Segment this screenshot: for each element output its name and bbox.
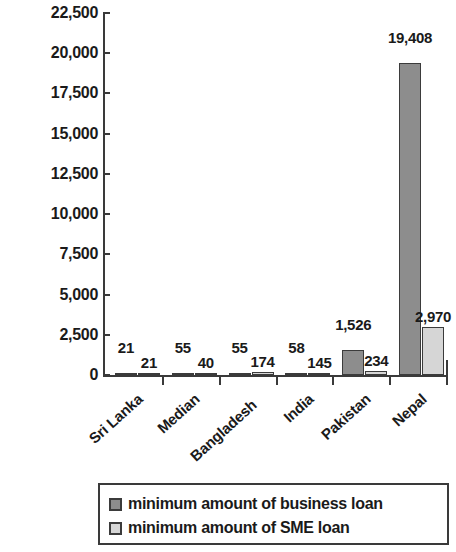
legend-swatch-icon-sme-loan (109, 522, 122, 535)
bar-value-label: 55 (175, 340, 191, 355)
bar[interactable] (138, 373, 160, 376)
y-axis-tick-label: 12,500 (12, 166, 98, 182)
y-axis-tick-mark (103, 294, 110, 296)
x-axis-tick-mark (332, 377, 334, 385)
x-axis-tick-mark (389, 377, 391, 385)
y-axis-tick-mark (103, 133, 110, 135)
bar[interactable] (115, 373, 137, 376)
bar-value-label: 2,970 (415, 309, 451, 324)
bar[interactable] (252, 372, 274, 375)
y-axis-tick-mark (103, 334, 110, 336)
legend-label-business-loan: minimum amount of business loan (128, 495, 383, 513)
y-axis-tick-label: 17,500 (12, 85, 98, 101)
bar-value-label: 234 (364, 353, 388, 368)
legend-item-sme-loan[interactable]: minimum amount of SME loan (109, 516, 447, 540)
bar[interactable] (399, 63, 421, 375)
y-axis-tick-mark (103, 253, 110, 255)
bar[interactable] (172, 373, 194, 376)
bar[interactable] (285, 373, 307, 376)
bar-value-label: 1,526 (335, 317, 371, 332)
bar-group: 58145 (276, 13, 333, 375)
bar[interactable] (229, 373, 251, 376)
y-axis-tick-mark (103, 213, 110, 215)
y-axis-tick-label: 7,500 (12, 246, 98, 262)
y-axis-tick-mark (103, 173, 110, 175)
bar-value-label: 55 (232, 340, 248, 355)
plot-area: 2121554055174581451,52623419,4082,970 (105, 13, 448, 375)
x-axis-tick-mark (162, 377, 164, 385)
x-axis-tick-mark (219, 377, 221, 385)
chart-legend: minimum amount of business loan minimum … (98, 483, 449, 545)
x-axis-tick-mark (276, 377, 278, 385)
bar[interactable] (365, 371, 387, 375)
legend-swatch-icon-business-loan (109, 498, 122, 511)
y-axis-tick-label: 22,500 (12, 5, 98, 21)
y-axis-tick-label: 20,000 (12, 45, 98, 61)
bar-group: 55174 (219, 13, 276, 375)
bar-group: 19,4082,970 (389, 13, 446, 375)
y-axis-tick-label: 5,000 (12, 287, 98, 303)
y-axis-tick-label: 10,000 (12, 206, 98, 222)
y-axis-tick-mark (103, 12, 110, 14)
bar-value-label: 145 (307, 355, 331, 370)
bar-value-label: 174 (250, 354, 274, 369)
bar-value-label: 19,408 (388, 30, 432, 45)
bar-value-label: 21 (118, 340, 134, 355)
legend-item-business-loan[interactable]: minimum amount of business loan (109, 492, 447, 516)
bar[interactable] (342, 350, 364, 375)
bar-value-label: 21 (141, 355, 157, 370)
y-axis-tick-mark (103, 374, 110, 376)
bar[interactable] (195, 373, 217, 376)
bar-value-label: 40 (198, 355, 214, 370)
y-axis-tick-label: 2,500 (12, 327, 98, 343)
legend-label-sme-loan: minimum amount of SME loan (128, 519, 350, 537)
bar-group: 2121 (105, 13, 162, 375)
bar-value-label: 58 (288, 340, 304, 355)
y-axis-tick-mark (103, 52, 110, 54)
bar[interactable] (308, 373, 330, 376)
bar-group: 5540 (162, 13, 219, 375)
x-axis-tick-mark (446, 377, 448, 385)
y-axis-tick-label: 0 (12, 367, 98, 383)
y-axis-tick-label: 15,000 (12, 126, 98, 142)
bar-group: 1,526234 (332, 13, 389, 375)
bar[interactable] (422, 327, 444, 375)
y-axis-tick-mark (103, 92, 110, 94)
